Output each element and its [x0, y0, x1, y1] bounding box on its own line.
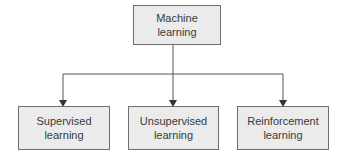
node-supervised-learning: Supervised learning [18, 106, 110, 150]
node-label: Reinforcement learning [247, 114, 319, 142]
node-label: Unsupervised learning [140, 114, 207, 142]
node-unsupervised-learning: Unsupervised learning [128, 106, 219, 150]
node-reinforcement-learning: Reinforcement learning [237, 106, 329, 150]
root-node-machine-learning: Machine learning [133, 5, 221, 45]
node-label: Supervised learning [36, 114, 91, 142]
root-node-label: Machine learning [156, 11, 198, 39]
